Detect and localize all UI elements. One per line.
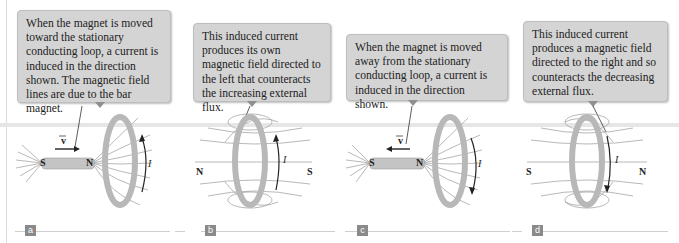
current-label-b: I (282, 154, 287, 165)
current-label-c: I (477, 158, 482, 169)
pole-s-d: S (526, 166, 532, 177)
conducting-loop (105, 117, 135, 205)
panel-label-b: b (205, 225, 216, 236)
diagram-a: S N v I (0, 0, 170, 243)
diagram-d: S N I (509, 0, 679, 243)
panel-a: When the magnet is moved toward the stat… (0, 0, 170, 243)
pole-s-b: S (307, 166, 313, 177)
current-arrow-b (276, 138, 279, 190)
panel-label-c: c (357, 225, 368, 236)
diagram-c: S N v I (340, 0, 510, 243)
panel-b: This induced current produces its own ma… (170, 0, 340, 243)
label-row-d: d (512, 225, 668, 237)
label-row-a: a (15, 225, 170, 237)
panel-label-d: d (532, 225, 543, 236)
label-row-c: c (345, 225, 510, 237)
label-row-b: b (175, 225, 335, 237)
pole-n-b: N (196, 166, 204, 177)
diagram-b: N S I (170, 0, 340, 243)
velocity-label-a: v (61, 135, 66, 146)
pole-s-c: S (369, 157, 375, 168)
current-arrow-c (471, 138, 476, 190)
panel-label-a: a (25, 225, 36, 236)
pole-n-a: N (86, 157, 94, 168)
velocity-label-c: v (398, 135, 403, 146)
field-lines-b (195, 114, 312, 208)
field-lines-d (527, 114, 647, 208)
conducting-loop (435, 117, 465, 205)
panel-d: This induced current produces a magnetic… (509, 0, 679, 243)
current-arrow-a (142, 138, 146, 192)
current-label-a: I (147, 158, 152, 169)
pole-n-c: N (416, 157, 424, 168)
current-label-d: I (614, 154, 619, 165)
pole-s-a: S (40, 157, 46, 168)
pole-n-d: N (639, 166, 647, 177)
panel-c: When the magnet is moved away from the s… (340, 0, 510, 243)
